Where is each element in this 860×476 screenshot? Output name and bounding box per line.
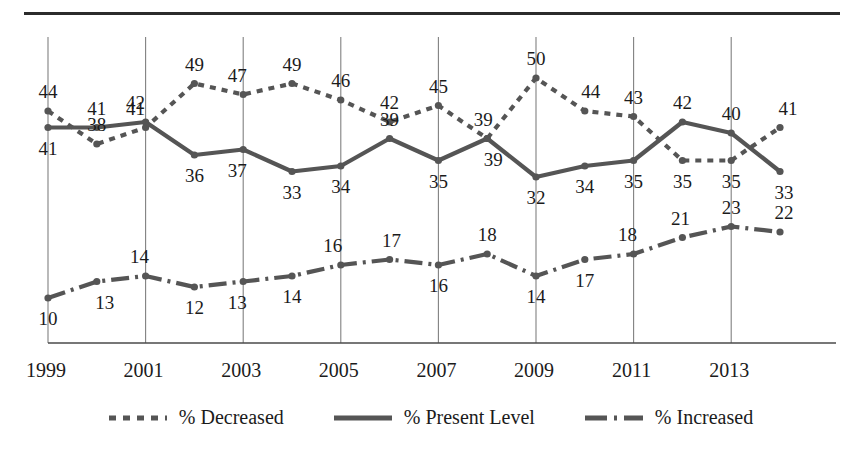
value-label-decreased-2003: 47 — [228, 65, 247, 84]
data-point-marker — [484, 135, 491, 142]
value-label-increased-1999: 10 — [39, 309, 58, 328]
legend-item-increased[interactable]: % Increased — [583, 406, 753, 429]
legend-label-present-level: % Present Level — [404, 406, 535, 429]
x-tick-label-2009: 2009 — [514, 359, 554, 382]
data-point-marker — [776, 168, 783, 175]
value-label-decreased-2014: 41 — [779, 98, 798, 117]
value-label-decreased-2008: 39 — [474, 109, 493, 128]
data-point-marker — [532, 74, 539, 81]
data-point-marker — [728, 223, 735, 230]
legend-label-increased: % Increased — [655, 406, 753, 429]
value-label-presentlevel-2013: 40 — [722, 104, 741, 123]
data-point-marker — [240, 91, 247, 98]
data-point-marker — [435, 102, 442, 109]
x-tick-label-2011: 2011 — [612, 359, 651, 382]
value-label-increased-2009: 14 — [527, 287, 546, 306]
x-tick-label-2003: 2003 — [221, 359, 261, 382]
value-label-presentlevel-2000: 41 — [87, 98, 106, 117]
data-point-marker — [191, 283, 198, 290]
data-point-marker — [776, 124, 783, 131]
data-point-marker — [93, 140, 100, 147]
data-point-marker — [93, 278, 100, 285]
value-label-presentlevel-2001: 42 — [126, 93, 145, 112]
value-label-increased-2002: 12 — [185, 298, 204, 317]
data-point-marker — [337, 162, 344, 169]
value-label-presentlevel-2005: 34 — [331, 177, 350, 196]
value-label-increased-2011: 18 — [618, 225, 637, 244]
x-tick-label-2005: 2005 — [319, 359, 359, 382]
value-label-presentlevel-1999: 41 — [39, 138, 58, 157]
value-label-decreased-2012: 35 — [673, 171, 692, 190]
data-point-marker — [337, 261, 344, 268]
value-label-presentlevel-2004: 33 — [283, 182, 302, 201]
value-label-increased-2004: 14 — [283, 287, 302, 306]
data-point-marker — [44, 124, 51, 131]
value-label-increased-2012: 21 — [671, 208, 690, 227]
data-point-marker — [435, 157, 442, 164]
value-label-increased-2005: 16 — [323, 236, 342, 255]
data-point-marker — [240, 146, 247, 153]
series-line-1 — [48, 122, 780, 177]
x-tick-label-2001: 2001 — [124, 359, 164, 382]
value-label-decreased-2004: 49 — [283, 54, 302, 73]
data-point-marker — [288, 168, 295, 175]
data-point-marker — [581, 162, 588, 169]
value-label-presentlevel-2007: 35 — [429, 171, 448, 190]
value-label-decreased-2002: 49 — [185, 54, 204, 73]
legend-item-decreased[interactable]: % Decreased — [107, 406, 284, 429]
data-point-marker — [337, 96, 344, 103]
value-label-decreased-2010: 44 — [581, 82, 600, 101]
legend-swatch-dash-dot — [583, 412, 645, 424]
value-label-decreased-2007: 45 — [429, 76, 448, 95]
chart-figure: 4438414947494642453950444335354141414236… — [0, 0, 860, 476]
data-point-marker — [191, 80, 198, 87]
series-line-2 — [48, 227, 780, 299]
data-point-marker — [776, 228, 783, 235]
value-label-increased-2001: 14 — [130, 247, 149, 266]
data-point-marker — [484, 250, 491, 257]
data-point-marker — [44, 294, 51, 301]
data-point-marker — [728, 157, 735, 164]
value-label-presentlevel-2011: 35 — [624, 171, 643, 190]
value-label-decreased-2013: 35 — [722, 171, 741, 190]
value-label-increased-2000: 13 — [95, 292, 114, 311]
value-label-presentlevel-2008: 39 — [484, 149, 503, 168]
data-point-marker — [240, 278, 247, 285]
value-label-presentlevel-2003: 37 — [228, 160, 247, 179]
value-label-presentlevel-2009: 32 — [527, 188, 546, 207]
data-point-marker — [191, 151, 198, 158]
data-point-marker — [630, 157, 637, 164]
value-label-increased-2010: 17 — [575, 270, 594, 289]
data-point-marker — [532, 272, 539, 279]
value-label-increased-2003: 13 — [228, 292, 247, 311]
data-point-marker — [142, 272, 149, 279]
legend-label-decreased: % Decreased — [179, 406, 284, 429]
data-point-marker — [679, 234, 686, 241]
data-point-marker — [532, 173, 539, 180]
legend-swatch-dotted — [107, 412, 169, 424]
value-label-increased-2008: 18 — [478, 225, 497, 244]
value-label-increased-2006: 17 — [382, 230, 401, 249]
data-point-marker — [679, 118, 686, 125]
value-label-increased-2007: 16 — [429, 276, 448, 295]
x-tick-label-1999: 1999 — [26, 359, 66, 382]
data-point-marker — [630, 250, 637, 257]
data-point-marker — [288, 80, 295, 87]
value-label-presentlevel-2014: 33 — [775, 182, 794, 201]
data-point-marker — [288, 272, 295, 279]
chart-legend: % Decreased % Present Level % Increased — [0, 406, 860, 429]
value-label-decreased-2005: 46 — [331, 71, 350, 90]
x-tick-label-2007: 2007 — [416, 359, 456, 382]
value-label-decreased-2009: 50 — [527, 49, 546, 68]
legend-swatch-solid — [332, 412, 394, 424]
data-point-marker — [728, 129, 735, 136]
data-point-marker — [435, 261, 442, 268]
data-point-marker — [386, 256, 393, 263]
legend-item-present-level[interactable]: % Present Level — [332, 406, 535, 429]
data-point-marker — [679, 157, 686, 164]
value-label-presentlevel-2010: 34 — [575, 177, 594, 196]
data-point-marker — [581, 256, 588, 263]
data-point-marker — [44, 107, 51, 114]
data-point-marker — [386, 135, 393, 142]
value-label-presentlevel-2012: 42 — [673, 93, 692, 112]
